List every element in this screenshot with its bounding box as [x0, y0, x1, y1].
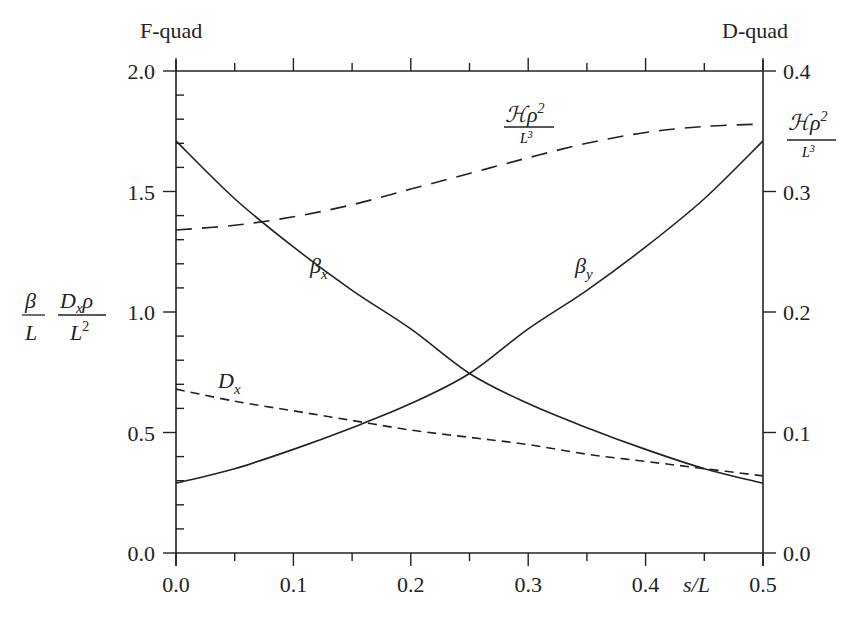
beta-y-annotation: βy: [574, 253, 593, 282]
left-axis-label: β L Dxρ L2: [22, 288, 106, 345]
axis-ticks: [163, 58, 776, 566]
x-tick-label: 0.4: [632, 572, 660, 597]
d-quad-label: D-quad: [722, 18, 788, 43]
left-y-tick-label: 1.0: [128, 300, 156, 325]
svg-text:L3: L3: [801, 143, 815, 160]
axis-tick-labels: 0.00.10.20.30.40.50.00.51.01.52.00.00.10…: [128, 59, 811, 597]
beta-y-curve: [176, 141, 763, 483]
right-y-tick-label: 0.1: [783, 421, 811, 446]
right-y-tick-label: 0.4: [783, 59, 811, 84]
x-axis-label: s/L: [683, 572, 710, 597]
plot-frame: [176, 60, 763, 566]
svg-text:L: L: [24, 320, 37, 345]
svg-text:L2: L2: [69, 319, 89, 345]
right-y-tick-label: 0.0: [783, 541, 811, 566]
svg-text:Dxρ: Dxρ: [59, 288, 93, 316]
dx-annotation: Dx: [217, 368, 241, 397]
curly-h-curve: [176, 124, 763, 230]
x-tick-label: 0.2: [397, 572, 425, 597]
left-y-tick-label: 1.5: [128, 180, 156, 205]
svg-text:L3: L3: [519, 129, 533, 146]
f-quad-label: F-quad: [140, 18, 202, 43]
right-y-tick-label: 0.3: [783, 180, 811, 205]
beta-x-curve: [176, 141, 763, 483]
x-tick-label: 0.5: [749, 572, 777, 597]
left-y-tick-label: 2.0: [128, 59, 156, 84]
curly-h-annotation: ℋρ2 L3: [504, 101, 554, 146]
right-y-tick-label: 0.2: [783, 300, 811, 325]
beta-x-annotation: βx: [309, 253, 328, 282]
svg-text:ℋρ2: ℋρ2: [788, 109, 828, 135]
curves: [176, 124, 763, 483]
curve-annotations: βx βy Dx ℋρ2 L3: [217, 101, 593, 397]
twiss-function-chart: F-quad D-quad 0.00.10.20.30.40.50.00.51.…: [0, 0, 849, 620]
left-y-tick-label: 0.5: [128, 421, 156, 446]
x-tick-label: 0.1: [280, 572, 308, 597]
x-tick-label: 0.0: [162, 572, 190, 597]
dispersion-curve: [176, 389, 763, 476]
left-y-tick-label: 0.0: [128, 541, 156, 566]
x-tick-label: 0.3: [514, 572, 542, 597]
right-axis-label: ℋρ2 L3: [787, 109, 836, 160]
svg-text:ℋρ2: ℋρ2: [505, 101, 545, 127]
svg-text:β: β: [24, 288, 36, 313]
